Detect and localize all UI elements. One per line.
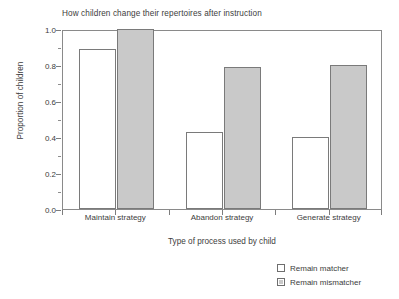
y-tick-mark-minor	[58, 48, 61, 49]
x-axis-title: Type of process used by child	[62, 237, 382, 246]
legend-label: Remain matcher	[290, 264, 349, 273]
chart-title: How children change their repertoires af…	[62, 9, 382, 18]
y-axis-title: Proportion of children	[16, 26, 25, 176]
y-tick-mark-major	[56, 66, 61, 67]
legend-swatch-icon	[277, 278, 285, 286]
bar-maintain-strategy-remain-matcher	[79, 49, 116, 209]
plot-area	[62, 30, 382, 210]
y-tick-mark-major	[56, 174, 61, 175]
x-axis-category-labels: Maintain strategyAbandon strategyGenerat…	[62, 213, 382, 227]
y-tick-mark-major	[56, 102, 61, 103]
y-tick-mark-minor	[58, 192, 61, 193]
legend-item-remain-matcher: Remain matcher	[277, 261, 397, 275]
y-tick-label: 0.0	[26, 206, 56, 215]
x-category-label: Abandon strategy	[191, 213, 254, 222]
bar-abandon-strategy-remain-mismatcher	[224, 67, 261, 209]
bar-generate-strategy-remain-matcher	[292, 137, 329, 209]
y-axis-tick-labels: 1.00.80.60.40.20.0	[26, 30, 56, 210]
x-category-label: Maintain strategy	[85, 213, 146, 222]
legend-item-remain-mismatcher: Remain mismatcher	[277, 275, 397, 289]
y-tick-mark-major	[56, 138, 61, 139]
y-tick-mark-minor	[58, 120, 61, 121]
y-tick-mark-major	[56, 210, 61, 211]
y-tick-label: 0.4	[26, 134, 56, 143]
y-tick-label: 0.8	[26, 62, 56, 71]
x-category-label: Generate strategy	[297, 213, 361, 222]
legend-swatch-icon	[277, 264, 285, 272]
legend-label: Remain mismatcher	[290, 278, 361, 287]
bar-maintain-strategy-remain-mismatcher	[117, 29, 154, 209]
y-tick-label: 0.6	[26, 98, 56, 107]
y-tick-mark-minor	[58, 156, 61, 157]
y-tick-mark-major	[56, 30, 61, 31]
chart-legend: Remain matcherRemain mismatcher	[277, 261, 397, 289]
y-tick-label: 1.0	[26, 26, 56, 35]
bar-abandon-strategy-remain-matcher	[186, 132, 223, 209]
y-tick-label: 0.2	[26, 170, 56, 179]
bar-generate-strategy-remain-mismatcher	[330, 65, 367, 209]
y-tick-mark-minor	[58, 84, 61, 85]
